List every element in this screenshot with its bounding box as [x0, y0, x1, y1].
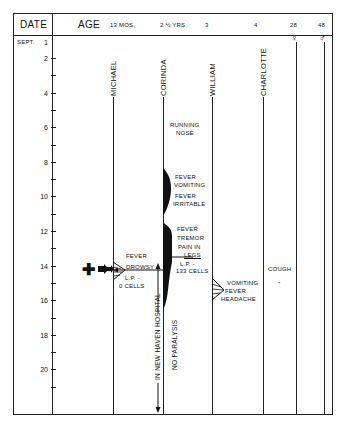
day-label: 8 — [34, 159, 48, 166]
day-tick — [51, 58, 56, 59]
age-michael: 13 MOS. — [110, 22, 135, 28]
age-mother: 28 — [290, 22, 297, 28]
charlotte-line — [263, 97, 264, 415]
day-tick — [51, 196, 56, 197]
date-header: DATE — [20, 20, 47, 30]
day-tick — [51, 352, 56, 353]
corinda-fever2: FEVER — [175, 193, 196, 199]
day-tick — [51, 110, 56, 111]
michael-lp: L.P. - — [125, 275, 140, 281]
charlotte-cough: COUGH — [268, 266, 291, 272]
corinda-illness-bar-2 — [163, 222, 175, 312]
charlotte-ditto: " — [278, 281, 280, 287]
name-corinda: CORINDA — [159, 59, 168, 96]
corinda-lp-arrow — [163, 254, 193, 260]
corinda-vomiting: VOMITING — [174, 182, 205, 188]
age-header: AGE — [78, 20, 100, 30]
day-label: 1 — [34, 39, 48, 46]
william-vomiting: VOMITING — [227, 280, 258, 286]
william-headache: HEADACHE — [221, 296, 256, 302]
day-tick — [51, 335, 56, 336]
day-tick — [51, 266, 56, 267]
age-william: 3 — [205, 22, 209, 28]
day-label: 16 — [34, 297, 48, 304]
no-paralysis-label: NO PARALYSIS — [171, 320, 178, 370]
day-tick — [51, 300, 56, 301]
corinda-nose: NOSE — [176, 130, 194, 136]
age-father: 48 — [318, 22, 325, 28]
corinda-tremor: TREMOR — [177, 235, 204, 241]
day-tick — [51, 162, 56, 163]
header-divider — [13, 35, 333, 36]
day-tick — [51, 248, 56, 249]
william-fever: FEVER — [225, 288, 246, 294]
age-charlotte: 4 — [254, 22, 258, 28]
day-label: 4 — [34, 90, 48, 97]
hospital-arrow — [155, 263, 161, 413]
michael-fever: FEVER — [126, 253, 147, 259]
corinda-irritable: IRRITABLE — [173, 201, 205, 207]
corinda-running: RUNNING — [170, 122, 199, 128]
age-corinda: 2 ½ YRS. — [160, 22, 187, 28]
day-label: 14 — [34, 263, 48, 270]
corinda-pain-in: PAIN IN — [178, 244, 201, 250]
day-tick — [51, 145, 56, 146]
month-label: SEPT. — [17, 39, 35, 45]
corinda-fever1: FEVER — [175, 174, 196, 180]
death-cross-icon: ✚ — [82, 262, 95, 278]
corinda-lp: L.P. - — [180, 261, 195, 267]
day-label: 2 — [34, 55, 48, 62]
male-symbol-icon: ♂ — [319, 33, 326, 43]
day-tick — [51, 127, 56, 128]
day-label: 10 — [34, 193, 48, 200]
mother-line — [296, 42, 297, 415]
female-symbol-icon: ♀ — [291, 33, 298, 43]
william-line — [212, 97, 213, 415]
day-tick — [51, 179, 56, 180]
day-label: 18 — [34, 332, 48, 339]
corinda-fever3: FEVER — [177, 226, 198, 232]
death-arrow-icon — [98, 264, 114, 274]
corinda-cells: 133 CELLS — [176, 268, 209, 274]
name-charlotte: CHARLOTTE — [259, 48, 268, 96]
day-tick — [51, 318, 56, 319]
day-tick — [51, 387, 56, 388]
michael-line — [113, 97, 114, 415]
day-label: 12 — [34, 228, 48, 235]
day-label: 6 — [34, 124, 48, 131]
day-tick — [51, 214, 56, 215]
name-william: WILLIAM — [208, 63, 217, 96]
day-label: 20 — [34, 366, 48, 373]
day-tick — [51, 231, 56, 232]
father-line — [324, 42, 325, 415]
name-michael: MICHAEL — [109, 61, 118, 96]
day-tick — [51, 75, 56, 76]
day-tick — [51, 283, 56, 284]
corinda-illness-bar-1 — [163, 168, 173, 218]
michael-cells: 0 CELLS — [119, 283, 144, 289]
day-tick — [51, 93, 56, 94]
day-tick — [51, 369, 56, 370]
